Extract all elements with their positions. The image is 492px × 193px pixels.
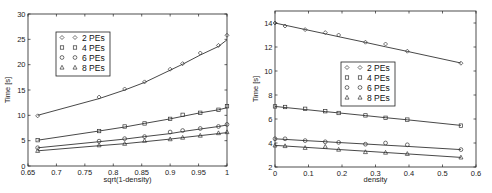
y-tick-label: 12 (264, 43, 272, 52)
y-tick-label: 0 (21, 162, 25, 171)
series-8-pes (36, 130, 229, 153)
chart-panel-2: 00.10.20.30.40.50.62468101214densityTime… (251, 11, 481, 184)
legend-label: 2 PEs (82, 33, 105, 43)
legend-label: 6 PEs (82, 53, 105, 63)
legend-label: 4 PEs (82, 43, 105, 53)
x-axis-label: density (364, 175, 388, 184)
y-tick-label: 14 (264, 19, 272, 28)
legend: 2 PEs4 PEs6 PEs8 PEs (56, 32, 110, 76)
x-tick-label: 0.1 (303, 169, 313, 178)
y-tick-label: 5 (21, 136, 25, 145)
y-tick-label: 20 (17, 60, 25, 69)
x-tick-label: 1 (225, 168, 229, 177)
legend-label: 8 PEs (367, 93, 390, 103)
series-6-pes (273, 137, 463, 152)
legend-label: 6 PEs (367, 83, 390, 93)
y-tick-label: 15 (17, 86, 25, 95)
x-tick-label: 0.75 (78, 168, 93, 177)
fit-line (275, 139, 461, 150)
data-point (283, 137, 287, 141)
data-point (459, 61, 463, 65)
x-tick-label: 0.2 (337, 169, 347, 178)
y-axis-label: Time [s] (3, 77, 12, 103)
y-tick-label: 8 (268, 91, 272, 100)
y-tick-label: 4 (268, 139, 272, 148)
x-tick-label: 0 (273, 169, 277, 178)
series-4-pes (273, 105, 462, 128)
y-tick-label: 10 (17, 111, 25, 120)
chart-panel-1: 0.650.70.750.80.850.90.951051015202530sq… (3, 10, 229, 184)
y-tick-label: 10 (264, 67, 272, 76)
x-tick-label: 0.4 (404, 169, 414, 178)
x-axis-label: sqrt(1-density) (104, 175, 152, 184)
x-tick-label: 0.7 (51, 168, 61, 177)
legend-label: 2 PEs (367, 63, 390, 73)
x-tick-label: 0.9 (165, 168, 175, 177)
figure: 0.650.70.750.80.850.90.951051015202530sq… (0, 0, 492, 193)
data-point (97, 143, 101, 147)
y-tick-label: 30 (17, 10, 25, 19)
fit-line (275, 23, 461, 63)
y-axis-label: Time [s] (251, 76, 260, 102)
series-8-pes (273, 143, 463, 159)
fit-line (275, 145, 461, 157)
y-tick-label: 2 (268, 163, 272, 172)
data-point (384, 141, 388, 145)
series-2-pes (273, 21, 463, 65)
legend-label: 8 PEs (82, 63, 105, 73)
y-tick-label: 25 (17, 35, 25, 44)
fit-line (275, 106, 461, 125)
x-tick-label: 0.5 (437, 169, 447, 178)
y-tick-label: 6 (268, 115, 272, 124)
x-tick-label: 0.95 (191, 168, 206, 177)
data-point (36, 114, 40, 118)
legend: 2 PEs4 PEs6 PEs8 PEs (341, 62, 395, 106)
data-point (323, 144, 327, 148)
fit-line (38, 133, 227, 151)
data-point (384, 42, 388, 46)
x-tick-label: 0.6 (471, 169, 481, 178)
legend-label: 4 PEs (367, 73, 390, 83)
series-4-pes (36, 105, 229, 142)
data-point (216, 131, 220, 135)
